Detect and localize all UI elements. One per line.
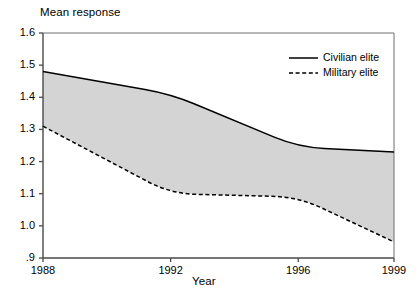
y-tick-label: 1.6 [9,26,35,38]
chart-container: Mean response Year 1.61.51.41.31.21.11.0… [0,0,419,297]
y-tick-label: 1.5 [9,58,35,70]
x-tick-label: 1992 [149,264,193,276]
y-tick-label: .9 [9,251,35,263]
y-tick-label: 1.4 [9,90,35,102]
x-axis-title: Year [192,275,216,287]
x-tick-label: 1999 [372,264,416,276]
x-tick-label: 1996 [276,264,320,276]
x-tick-label: 1988 [21,264,65,276]
legend-label-military-elite: Military elite [323,66,378,78]
chart-plot-svg [0,0,419,297]
y-tick-label: 1.0 [9,219,35,231]
y-tick-label: 1.1 [9,187,35,199]
y-axis-title: Mean response [40,6,121,18]
legend-label-civilian-elite: Civilian elite [323,51,379,63]
y-tick-label: 1.3 [9,122,35,134]
y-tick-label: 1.2 [9,155,35,167]
